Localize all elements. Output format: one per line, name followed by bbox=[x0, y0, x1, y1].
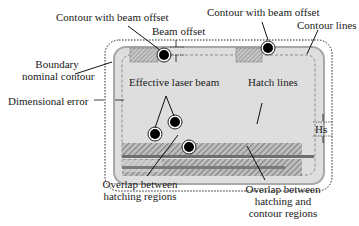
contour-offset-block-right bbox=[236, 48, 262, 62]
label-beam-offset: Beam offset bbox=[152, 25, 205, 37]
contour-offset-block-left bbox=[130, 48, 158, 62]
hatch-region-upper bbox=[122, 143, 302, 157]
overlap-band-hatching bbox=[122, 155, 314, 158]
label-hatch-lines: Hatch lines bbox=[248, 76, 298, 88]
label-overlap-contour: Overlap between hatching and contour reg… bbox=[233, 183, 333, 219]
laser-beam-top-left bbox=[157, 48, 171, 62]
label-overlap-hatching: Overlap between hatching regions bbox=[95, 178, 185, 202]
label-effective-laser-beam: Effective laser beam bbox=[129, 76, 219, 88]
label-contour-beam-offset-right: Contour with beam offset bbox=[207, 6, 320, 18]
label-hs: Hs bbox=[315, 123, 327, 135]
laser-beam-hatch-1 bbox=[168, 115, 182, 129]
label-contour-beam-offset-left: Contour with beam offset bbox=[56, 11, 169, 23]
label-dimensional-error: Dimensional error bbox=[8, 95, 88, 107]
laser-beam-hatch-2 bbox=[148, 127, 162, 141]
laser-beam-hatch-3 bbox=[182, 140, 196, 154]
overlap-band-contour bbox=[122, 166, 285, 169]
label-boundary: Boundary nominal contour bbox=[22, 58, 92, 82]
laser-beam-top-right bbox=[261, 41, 275, 55]
label-contour-lines: Contour lines bbox=[297, 19, 357, 31]
